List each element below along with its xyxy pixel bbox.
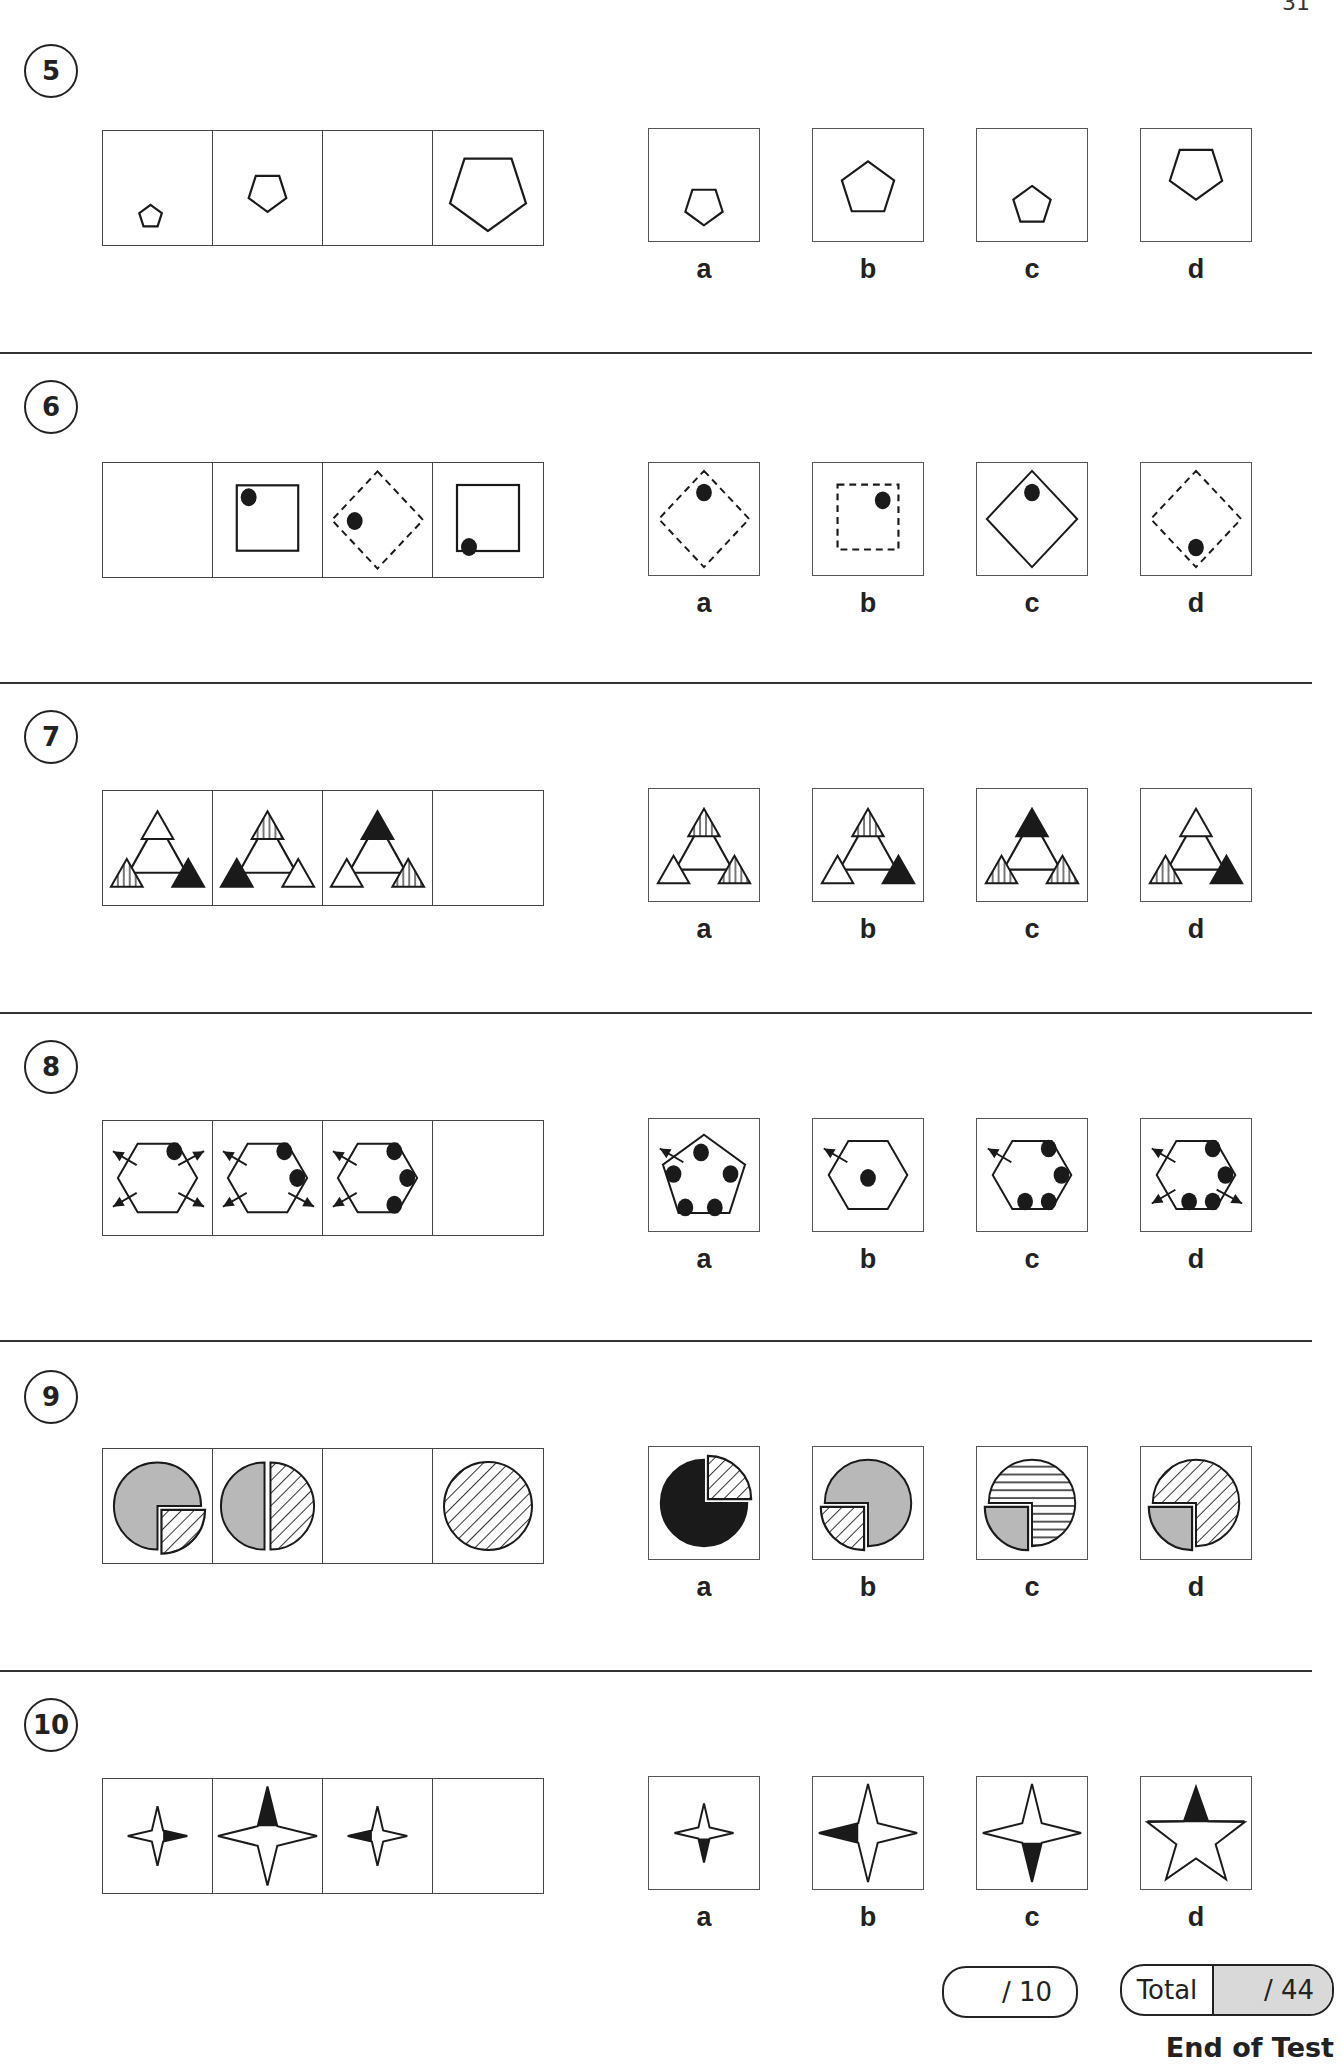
question-divider (0, 1340, 1312, 1342)
figure-pie (103, 1449, 212, 1563)
option-label: a (648, 1902, 760, 1933)
figure-triad (813, 789, 923, 901)
answer-option-b[interactable]: b (812, 788, 924, 945)
option-label: b (812, 588, 924, 619)
answer-option-a[interactable]: a (648, 1776, 760, 1933)
option-figure-box[interactable] (648, 788, 760, 902)
option-figure-box[interactable] (976, 788, 1088, 902)
question-7-series (102, 790, 544, 906)
option-label: d (1140, 1572, 1252, 1603)
question-divider (0, 1012, 1312, 1014)
total-score-box[interactable]: Total / 44 (1120, 1964, 1334, 2016)
answer-option-c[interactable]: c (976, 1118, 1088, 1275)
option-figure-box[interactable] (648, 1118, 760, 1232)
option-figure-box[interactable] (812, 1118, 924, 1232)
answer-option-b[interactable]: b (812, 128, 924, 285)
answer-option-b[interactable]: b (812, 462, 924, 619)
question-5-series (102, 130, 544, 246)
total-score-value: / 44 (1214, 1966, 1332, 2014)
figure-hexagon (1141, 1119, 1251, 1231)
figure-star4 (649, 1777, 759, 1889)
option-figure-box[interactable] (976, 462, 1088, 576)
answer-option-c[interactable]: c (976, 462, 1088, 619)
option-figure-box[interactable] (1140, 462, 1252, 576)
option-figure-box[interactable] (812, 128, 924, 242)
option-label: d (1140, 1244, 1252, 1275)
option-figure-box[interactable] (1140, 128, 1252, 242)
page-number: 31 (1282, 0, 1310, 15)
option-label: c (976, 1572, 1088, 1603)
series-cell (103, 131, 213, 245)
figure-square (433, 463, 543, 577)
figure-diamond (323, 463, 432, 577)
option-figure-box[interactable] (976, 1118, 1088, 1232)
option-figure-box[interactable] (648, 128, 760, 242)
figure-hexagon (977, 1119, 1087, 1231)
series-cell (323, 791, 433, 905)
answer-option-b[interactable]: b (812, 1776, 924, 1933)
answer-option-d[interactable]: d (1140, 128, 1252, 285)
answer-option-a[interactable]: a (648, 128, 760, 285)
answer-option-d[interactable]: d (1140, 1446, 1252, 1603)
figure-pentagon (977, 129, 1087, 241)
series-cell (213, 1121, 323, 1235)
series-cell (213, 791, 323, 905)
question-8-series (102, 1120, 544, 1236)
option-figure-box[interactable] (648, 1446, 760, 1560)
option-figure-box[interactable] (976, 1446, 1088, 1560)
figure-pie (433, 1449, 543, 1563)
answer-option-d[interactable]: d (1140, 1776, 1252, 1933)
option-figure-box[interactable] (812, 462, 924, 576)
option-figure-box[interactable] (1140, 788, 1252, 902)
option-figure-box[interactable] (812, 1446, 924, 1560)
series-cell-missing (103, 463, 213, 577)
answer-option-c[interactable]: c (976, 1776, 1088, 1933)
option-figure-box[interactable] (812, 1776, 924, 1890)
option-label: a (648, 254, 760, 285)
option-figure-box[interactable] (648, 1776, 760, 1890)
series-cell (323, 1121, 433, 1235)
figure-pentagon-dots (649, 1119, 759, 1231)
answer-option-a[interactable]: a (648, 1446, 760, 1603)
figure-triad (977, 789, 1087, 901)
figure-triad (1141, 789, 1251, 901)
option-label: b (812, 1244, 924, 1275)
answer-option-d[interactable]: d (1140, 462, 1252, 619)
series-cell (103, 791, 213, 905)
figure-diamond (649, 463, 759, 575)
series-cell (103, 1449, 213, 1563)
answer-option-c[interactable]: c (976, 788, 1088, 945)
option-figure-box[interactable] (648, 462, 760, 576)
option-label: a (648, 1572, 760, 1603)
figure-star4 (213, 1779, 322, 1893)
option-label: c (976, 1244, 1088, 1275)
question-number-6: 6 (24, 380, 78, 434)
answer-option-a[interactable]: a (648, 462, 760, 619)
option-label: d (1140, 1902, 1252, 1933)
answer-option-c[interactable]: c (976, 128, 1088, 285)
series-cell (213, 131, 323, 245)
option-figure-box[interactable] (812, 788, 924, 902)
figure-hexagon (323, 1121, 432, 1235)
figure-pentagon (649, 129, 759, 241)
section-score-box[interactable]: / 10 (942, 1966, 1078, 2018)
answer-option-a[interactable]: a (648, 788, 760, 945)
question-9-series (102, 1448, 544, 1564)
section-score-value: / 10 (1002, 1977, 1052, 2007)
option-figure-box[interactable] (1140, 1446, 1252, 1560)
figure-pentagon (813, 129, 923, 241)
answer-option-d[interactable]: d (1140, 788, 1252, 945)
figure-square (813, 463, 923, 575)
option-figure-box[interactable] (1140, 1118, 1252, 1232)
answer-option-a[interactable]: a (648, 1118, 760, 1275)
answer-option-b[interactable]: b (812, 1118, 924, 1275)
option-label: d (1140, 914, 1252, 945)
option-figure-box[interactable] (976, 128, 1088, 242)
option-figure-box[interactable] (1140, 1776, 1252, 1890)
answer-option-d[interactable]: d (1140, 1118, 1252, 1275)
figure-star4 (103, 1779, 212, 1893)
answer-option-c[interactable]: c (976, 1446, 1088, 1603)
answer-option-b[interactable]: b (812, 1446, 924, 1603)
option-figure-box[interactable] (976, 1776, 1088, 1890)
question-number-8: 8 (24, 1040, 78, 1094)
